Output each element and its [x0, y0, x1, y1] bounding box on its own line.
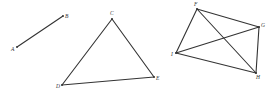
point-i: [175, 52, 177, 54]
edge-ec: [112, 19, 154, 77]
edge-cd: [62, 19, 112, 85]
point-f: [196, 8, 198, 10]
edge-if: [176, 9, 197, 53]
edge-gh: [256, 27, 259, 73]
label-b: B: [65, 13, 69, 19]
point-a: [16, 46, 18, 48]
triangle-cde: CDE: [55, 10, 160, 89]
segment-ab: AB: [10, 13, 69, 52]
label-g: G: [261, 22, 265, 28]
quadrilateral-fghi: FGHI: [170, 1, 265, 80]
label-e: E: [155, 75, 160, 81]
geometry-diagram: AB CDE FGHI: [0, 0, 274, 93]
edge-fh: [197, 9, 256, 73]
edge-fg: [197, 9, 259, 27]
point-d: [61, 84, 63, 86]
point-b: [62, 15, 64, 17]
point-g: [258, 26, 260, 28]
edge-hi: [176, 53, 256, 73]
edge-ab: [17, 16, 63, 47]
label-i: I: [170, 51, 174, 57]
point-e: [153, 76, 155, 78]
label-c: C: [110, 10, 114, 16]
label-h: H: [255, 74, 261, 80]
label-a: A: [10, 46, 15, 52]
label-d: D: [55, 83, 60, 89]
point-c: [111, 18, 113, 20]
edge-de: [62, 77, 154, 85]
label-f: F: [193, 1, 198, 7]
